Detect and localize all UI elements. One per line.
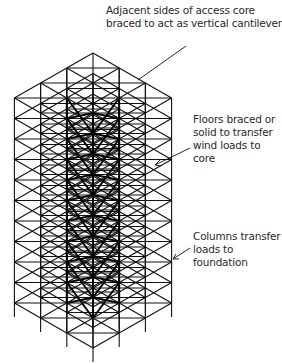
annotation-columns-line-3: foundation [193,256,280,269]
leader-floors [155,148,190,165]
annotation-floors: Floors braced or solid to transfer wind … [193,113,275,165]
annotation-floors-line-4: core [193,152,275,165]
annotation-columns-line-2: loads to [193,243,280,256]
floor-beam [41,186,120,231]
floor-beam [67,104,146,149]
floor-beam [67,247,146,292]
annotation-core-line-2: braced to act as vertical cantilevers [106,17,282,30]
floor-beam [41,124,120,169]
floor-beam [67,165,146,210]
annotation-columns-line-1: Columns transfer [193,230,280,243]
floor-beam [93,53,172,98]
floor-beam [41,247,120,292]
floor-beam [14,53,93,98]
floor-beam [41,227,120,272]
floor-beam [41,206,120,251]
leader-columns [173,248,190,259]
annotation-floors-line-3: wind loads to [193,139,275,152]
annotation-floors-line-1: Floors braced or [193,113,275,126]
arrowhead-columns [173,254,179,259]
annotation-core-line-1: Adjacent sides of access core [106,4,282,17]
annotation-columns: Columns transfer loads to foundation [193,230,280,269]
floor-beam [67,227,146,272]
floor-beam [67,68,146,113]
annotation-core: Adjacent sides of access core braced to … [106,4,282,30]
floor-beam [14,74,93,119]
annotation-floors-line-2: solid to transfer [193,126,275,139]
floor-beam [41,104,120,149]
floor-beam [41,145,120,190]
floor-beam [67,206,146,251]
floor-beam [67,186,146,231]
floor-beam [14,303,93,348]
floor-beam [93,303,172,348]
floor-beam [67,268,146,313]
floor-beam [14,283,93,328]
floor-beam [67,288,146,333]
floor-beam [41,83,120,128]
floor-beam [67,83,146,128]
floor-beam [41,165,120,210]
floor-beam [67,89,146,134]
floor-beam [93,74,172,119]
braced-core [67,98,119,318]
floor-beam [41,288,120,333]
leader-core [138,46,186,80]
tower-frame-diagram [0,0,282,364]
floor-beam [41,268,120,313]
floor-beam [67,145,146,190]
floor-beam [41,89,120,134]
floor-beam [67,124,146,169]
floor-beam [41,68,120,113]
floor-beam [93,283,172,328]
